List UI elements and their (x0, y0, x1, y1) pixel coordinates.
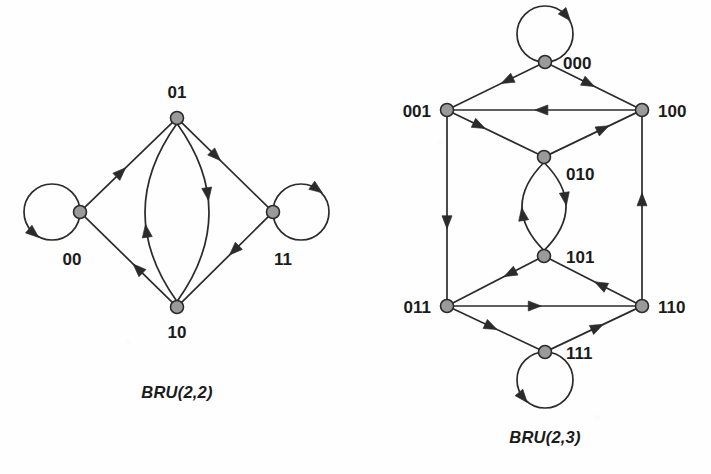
edge-10-to-01 (145, 124, 177, 302)
node-101[interactable] (538, 250, 551, 263)
node-110[interactable] (636, 300, 649, 313)
node-label-111: 111 (566, 344, 593, 363)
edge-11-to-11-arrowhead (309, 181, 322, 193)
node-layer (441, 56, 649, 359)
caption-bru23: BRU(2,3) (509, 428, 581, 446)
edge-01-to-10 (177, 124, 209, 302)
edge-011-to-111-arrowhead (483, 319, 497, 329)
edge-layer (24, 122, 329, 303)
edge-001-to-011-arrowhead (442, 216, 452, 229)
edge-11-to-10 (181, 216, 269, 303)
node-label-100: 100 (658, 102, 686, 121)
edge-110-to-101-arrowhead (595, 282, 609, 292)
edge-011-to-110-arrowhead (528, 301, 541, 311)
label-layer: 000001100010101011110111 (403, 54, 687, 363)
node-label-000: 000 (563, 54, 591, 73)
edge-000-to-001-arrowhead (501, 73, 515, 83)
edge-101-to-010-arrowhead (519, 208, 529, 222)
edge-00-to-01 (84, 122, 173, 208)
node-10[interactable] (171, 301, 184, 314)
edge-101-to-010 (522, 163, 544, 251)
node-label-01: 01 (168, 83, 187, 102)
node-01[interactable] (171, 112, 184, 125)
node-011[interactable] (441, 300, 454, 313)
node-label-101: 101 (566, 248, 594, 267)
node-label-00: 00 (63, 250, 82, 269)
edge-001-to-010-arrowhead (471, 118, 485, 128)
edge-010-to-101 (544, 163, 566, 251)
node-layer (74, 112, 280, 314)
edge-111-to-111-arrowhead (515, 389, 527, 402)
edge-110-to-100-arrowhead (637, 193, 647, 206)
node-label-010: 010 (566, 165, 594, 184)
edge-100-to-001-arrowhead (535, 105, 548, 115)
edge-111-to-110-arrowhead (589, 324, 603, 334)
edge-010-to-100 (549, 112, 637, 154)
edge-001-to-010 (452, 112, 539, 154)
edge-010-to-101-arrowhead (559, 192, 569, 206)
node-001[interactable] (441, 104, 454, 117)
node-label-11: 11 (274, 250, 292, 269)
node-100[interactable] (636, 104, 649, 117)
edge-101-to-011-arrowhead (504, 266, 518, 276)
node-label-110: 110 (658, 298, 685, 317)
node-label-011: 011 (404, 298, 431, 317)
edge-01-to-10-arrowhead (202, 187, 212, 201)
node-111[interactable] (539, 346, 552, 359)
caption-bru22: BRU(2,2) (141, 383, 213, 401)
edge-10-to-01-arrowhead (142, 224, 152, 238)
node-010[interactable] (538, 151, 551, 164)
bru-graphs-svg: 01001110BRU(2,2)000001100010101011110111… (0, 0, 711, 474)
node-00[interactable] (74, 206, 87, 219)
edge-010-to-100-arrowhead (595, 126, 609, 136)
figure-bru22: 01001110BRU(2,2) (24, 83, 329, 401)
edge-000-to-001 (452, 64, 540, 107)
edge-101-to-011 (452, 259, 539, 304)
figure-bru23: 000001100010101011110111BRU(2,3) (403, 6, 687, 446)
figure-canvas: 01001110BRU(2,2)000001100010101011110111… (0, 0, 711, 474)
edge-000-to-100-arrowhead (581, 76, 595, 86)
node-label-10: 10 (168, 323, 187, 342)
node-11[interactable] (267, 206, 280, 219)
node-000[interactable] (539, 56, 552, 69)
edge-01-to-11 (181, 122, 269, 208)
node-label-001: 001 (403, 102, 431, 121)
edge-10-to-00 (84, 216, 173, 303)
